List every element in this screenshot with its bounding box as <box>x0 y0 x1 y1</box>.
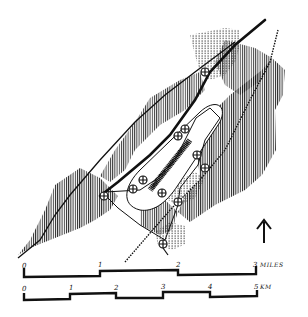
scale-km-tick-2: 2 <box>113 284 119 292</box>
scale-km-unit: KM <box>259 283 272 290</box>
junction-marker <box>139 176 147 184</box>
junction-marker <box>174 132 182 140</box>
junction-marker <box>193 151 201 159</box>
junction-marker <box>181 125 189 133</box>
scale-km-tick-5: 5 <box>254 283 259 291</box>
junction-marker <box>100 192 108 200</box>
junction-marker <box>201 164 209 172</box>
junction-marker <box>158 189 166 197</box>
north-arrow-icon <box>257 220 271 243</box>
scale-miles-tick-0: 0 <box>22 262 27 270</box>
junction-marker <box>174 198 182 206</box>
scale-bar-miles: 0 1 2 3 MILES <box>22 261 284 277</box>
junction-marker <box>159 240 167 248</box>
scale-miles-unit: MILES <box>259 261 284 268</box>
scale-km-tick-3: 3 <box>161 283 166 291</box>
junction-marker <box>129 185 137 193</box>
scale-km-tick-1: 1 <box>69 284 73 292</box>
scale-km-tick-4: 4 <box>207 283 212 291</box>
site-map: 0 1 2 3 MILES 0 1 2 3 4 5 KM <box>0 0 308 317</box>
hatched-areas <box>18 40 285 255</box>
scale-bar-km: 0 1 2 3 4 5 KM <box>22 283 272 300</box>
scale-miles-tick-1: 1 <box>98 261 102 269</box>
junction-marker <box>201 68 209 76</box>
scale-miles-tick-3: 3 <box>253 261 258 269</box>
scale-km-tick-0: 0 <box>22 285 27 293</box>
scale-miles-tick-2: 2 <box>175 261 181 269</box>
